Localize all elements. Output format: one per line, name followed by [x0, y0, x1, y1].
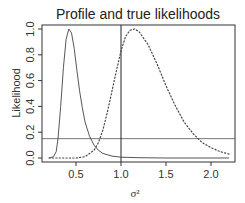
- y-tick-label: 1.0: [24, 21, 36, 36]
- x-axis-label: σ²: [130, 187, 140, 199]
- reference-lines: [42, 25, 235, 162]
- likelihood-chart: Profile and true likelihoods 0.00.20.40.…: [0, 0, 245, 203]
- y-axis-label: Likelihood: [10, 68, 22, 118]
- x-tick-label: 0.5: [68, 168, 83, 180]
- y-tick-label: 0.4: [24, 99, 36, 114]
- chart-title: Profile and true likelihoods: [56, 6, 220, 22]
- plot-frame: [42, 25, 235, 162]
- y-tick-label: 0.0: [24, 150, 36, 165]
- x-tick-label: 1.5: [158, 168, 173, 180]
- y-tick-label: 0.2: [24, 125, 36, 140]
- x-axis: 0.51.01.52.0: [68, 162, 218, 180]
- y-tick-label: 0.6: [24, 73, 36, 88]
- y-tick-label: 0.8: [24, 47, 36, 62]
- x-tick-label: 1.0: [113, 168, 128, 180]
- y-axis: 0.00.20.40.60.81.0: [24, 21, 42, 165]
- x-tick-label: 2.0: [203, 168, 218, 180]
